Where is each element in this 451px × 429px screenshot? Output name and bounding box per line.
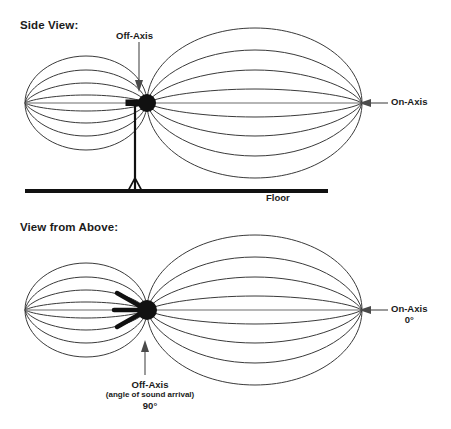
above-off-axis-angle: 90°: [86, 400, 214, 411]
side-view-group: [25, 28, 388, 191]
above-view-title: View from Above:: [20, 221, 118, 235]
side-on-axis-label: On-Axis: [391, 96, 427, 107]
floor-label: Floor: [266, 192, 290, 203]
polar-pattern-diagram: Side View: Off-Axis On-Axis Floor View f…: [0, 0, 451, 429]
diagram-canvas: [0, 0, 451, 429]
above-on-axis-pointer-icon: [359, 306, 388, 314]
above-off-axis-note: (angle of sound arrival): [86, 390, 214, 399]
above-off-axis-label: Off-Axis: [86, 379, 214, 390]
above-off-axis-pointer-icon: [141, 340, 149, 375]
above-on-axis-angle: 0°: [391, 314, 427, 325]
above-on-axis-block: On-Axis 0°: [391, 303, 427, 325]
above-off-axis-block: Off-Axis (angle of sound arrival) 90°: [86, 379, 214, 411]
side-view-title: Side View:: [20, 19, 78, 33]
microphone-capsule-side: [126, 94, 156, 112]
above-view-group: [25, 235, 388, 385]
side-off-axis-label: Off-Axis: [116, 30, 153, 41]
side-on-axis-pointer-icon: [359, 99, 388, 107]
above-on-axis-label: On-Axis: [391, 303, 427, 314]
microphone-capsule-above: [114, 293, 157, 327]
